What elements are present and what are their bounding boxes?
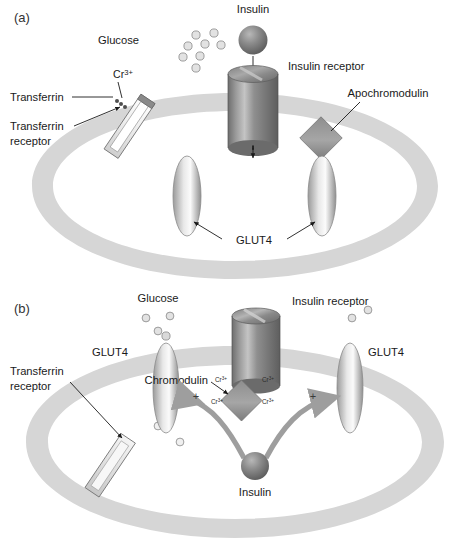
insulin-label-a: Insulin <box>237 3 269 15</box>
glut4-leader-right-a <box>287 222 315 239</box>
insulin-sphere-a <box>239 26 268 55</box>
insulin-receptor-label-a: Insulin receptor <box>288 60 365 72</box>
glucose-entering-left-b <box>162 332 170 340</box>
glut4-membrane-right-b <box>337 343 363 433</box>
panel-a: (a) Glucose Insulin <box>0 0 470 280</box>
glut4-label-right-b: GLUT4 <box>368 346 404 358</box>
glucose-label-b: Glucose <box>137 292 178 304</box>
plus-sign-left-b: + <box>193 390 199 402</box>
glut4-membrane-left-b <box>153 343 179 433</box>
panel-a-label: (a) <box>14 10 30 25</box>
insulin-receptor-b <box>232 308 280 394</box>
plus-sign-right-b: + <box>310 390 316 402</box>
panel-b: (b) Glucose <box>0 278 470 556</box>
glucose-label-a: Glucose <box>98 34 139 46</box>
glut4-label-left-b: GLUT4 <box>92 346 128 358</box>
chromium-label-top-left-b: Cr3+ <box>215 376 227 383</box>
transferrin-label-a: Transferrin <box>10 91 64 103</box>
chromodulin-label-b: Chromodulin <box>145 374 208 386</box>
apochromodulin-label-a: Apochromodulin <box>348 87 429 99</box>
insulin-receptor-a <box>228 66 278 157</box>
transferrin-receptor-label-line1-a: Transferrin <box>10 120 64 132</box>
insulin-receptor-label-b: Insulin receptor <box>292 295 369 307</box>
transferrin-receptor-label-line2-a: receptor <box>10 135 51 147</box>
transferrin-receptor-label-line1-b: Transferrin <box>10 365 64 377</box>
chromodulin-leader-b <box>211 382 228 394</box>
glut4-label-a: GLUT4 <box>236 234 272 246</box>
chromium-dots-a <box>115 99 127 109</box>
activation-arrow-right-b <box>266 399 328 458</box>
insulin-sphere-b <box>241 452 269 480</box>
glucose-dots-inside-b <box>154 421 351 446</box>
chromium-label-bottom-right-b: Cr3+ <box>262 398 274 405</box>
chromium-label-a: Cr3+ <box>113 68 133 81</box>
panel-b-label: (b) <box>14 301 30 316</box>
transferrin-receptor-b <box>85 434 135 497</box>
insulin-label-b: Insulin <box>239 486 271 498</box>
transferrin-receptor-label-line2-b: receptor <box>10 380 51 392</box>
figure-root: (a) Glucose Insulin <box>0 0 470 556</box>
glucose-cluster-a <box>179 29 225 72</box>
chromium-leader-a <box>118 82 122 98</box>
chromium-label-bottom-left-b: Cr3+ <box>211 398 223 405</box>
glut4-leader-left-a <box>194 222 222 239</box>
